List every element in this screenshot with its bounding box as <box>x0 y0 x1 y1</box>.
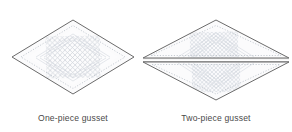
caption-one-piece: One-piece gusset <box>38 113 108 123</box>
gusset-diagram-figure: One-piece gusset <box>0 0 292 132</box>
diagram-canvas: One-piece gusset <box>0 0 292 132</box>
caption-two-piece: Two-piece gusset <box>181 113 251 123</box>
